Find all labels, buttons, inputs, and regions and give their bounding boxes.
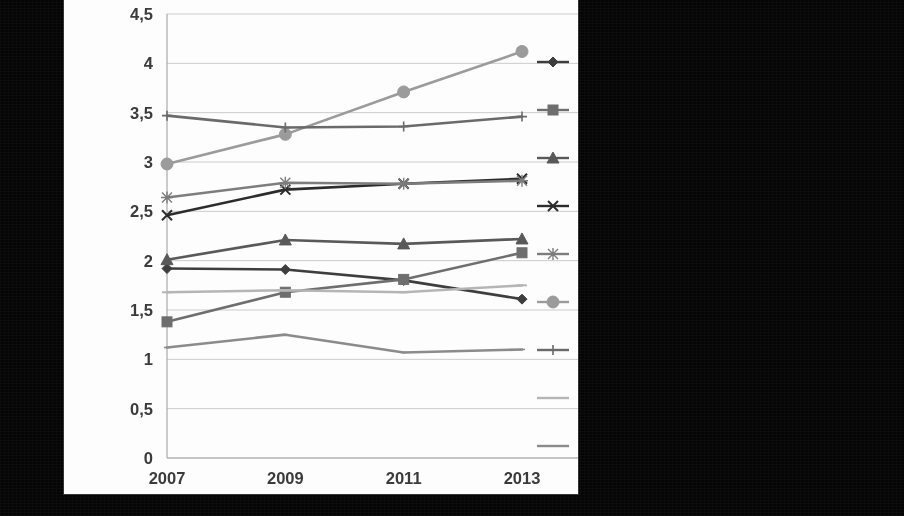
data-point-circle (398, 86, 410, 98)
line-chart: 00,511,522,533,544,5 2007200920112013 (64, 0, 578, 494)
series-line (167, 269, 522, 300)
series-series-3 (161, 233, 528, 265)
y-tick-label: 1 (144, 350, 153, 368)
data-point-star (547, 248, 559, 260)
legend-item[interactable] (537, 57, 569, 67)
x-tick-label: 2009 (267, 469, 304, 487)
data-point-circle (516, 45, 528, 57)
data-point-square (548, 105, 558, 115)
x-tick-label: 2007 (149, 469, 186, 487)
data-point-star (161, 192, 173, 204)
y-tick-label: 4 (144, 54, 154, 72)
data-point-star (279, 177, 291, 189)
series-line (167, 335, 522, 353)
y-tick-label: 4,5 (130, 5, 153, 23)
x-axis-tick-labels: 2007200920112013 (149, 469, 541, 487)
series-series-1 (162, 264, 527, 305)
data-point-star (398, 178, 410, 190)
legend-item[interactable] (537, 345, 569, 355)
data-point-diamond (548, 57, 558, 67)
legend-item[interactable] (537, 105, 569, 115)
data-point-plus (399, 121, 409, 131)
screenshot-root: 00,511,522,533,544,5 2007200920112013 (0, 0, 904, 516)
data-point-plus (162, 111, 172, 121)
series-line (167, 51, 522, 163)
data-point-star (516, 175, 528, 187)
y-axis-tick-labels: 00,511,522,533,544,5 (130, 5, 154, 467)
x-tick-label: 2011 (386, 469, 422, 487)
series-line (167, 239, 522, 260)
legend-item[interactable] (537, 296, 569, 308)
series-line (167, 116, 522, 128)
y-tick-label: 1,5 (130, 301, 153, 319)
data-point-diamond (517, 294, 527, 304)
series-series-9 (164, 335, 525, 353)
legend-item[interactable] (537, 201, 569, 211)
series-series-6 (161, 45, 528, 169)
data-point-square (162, 317, 172, 327)
y-tick-label: 0 (144, 449, 153, 467)
y-tick-label: 2 (144, 252, 153, 270)
data-point-square (517, 248, 527, 258)
legend-item[interactable] (537, 248, 569, 260)
series-series-5 (161, 175, 528, 204)
y-tick-label: 3 (144, 153, 153, 171)
y-tick-label: 2,5 (130, 202, 153, 220)
data-point-diamond (280, 265, 290, 275)
y-tick-label: 0,5 (130, 400, 153, 418)
data-point-circle (161, 158, 173, 170)
x-tick-label: 2013 (504, 469, 541, 487)
y-tick-label: 3,5 (130, 104, 153, 122)
series-layer (161, 45, 528, 352)
axis-lines (167, 14, 578, 458)
data-point-square (399, 274, 409, 284)
data-point-square (280, 287, 290, 297)
series-line (167, 181, 522, 198)
gridlines (167, 14, 578, 458)
legend (537, 57, 569, 446)
data-point-plus (548, 345, 558, 355)
legend-item[interactable] (537, 152, 569, 163)
data-point-circle (547, 296, 559, 308)
chart-panel: 00,511,522,533,544,5 2007200920112013 (64, 0, 578, 494)
